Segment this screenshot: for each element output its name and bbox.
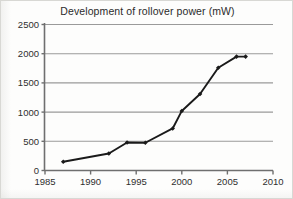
data-point-marker (61, 159, 66, 164)
x-axis-tick-label: 2010 (262, 176, 283, 187)
data-series-line (63, 57, 245, 162)
x-axis-tick-label: 1995 (126, 176, 147, 187)
y-axis-tick-label: 2500 (18, 19, 39, 30)
gridlines-group (45, 25, 273, 142)
y-axis-labels-group: 05001000150020002500 (18, 19, 39, 176)
x-axis-labels-group: 198519901995200020052010 (34, 176, 283, 187)
line-chart: 05001000150020002500 1985199019952000200… (1, 1, 293, 199)
x-axis-tick-label: 1985 (34, 176, 55, 187)
data-point-markers-group (61, 54, 248, 164)
y-axis-tick-label: 0 (34, 165, 39, 176)
data-point-marker (243, 54, 248, 59)
y-axis-tick-label: 1500 (18, 77, 39, 88)
y-axis-tick-label: 1000 (18, 107, 39, 118)
x-axis-tick-label: 2000 (171, 176, 192, 187)
y-axis-tick-label: 500 (23, 136, 39, 147)
chart-screenshot: Development of rollover power (mW) 05001… (0, 0, 293, 199)
x-axis-tick-label: 1990 (80, 176, 101, 187)
x-axis-tick-label: 2005 (217, 176, 238, 187)
y-axis-tick-label: 2000 (18, 48, 39, 59)
